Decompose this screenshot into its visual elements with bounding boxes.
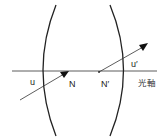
nodal-point-rear-dot xyxy=(98,71,100,73)
label-u-prime: u′ xyxy=(131,59,138,69)
label-optical-axis: 光軸 xyxy=(138,78,156,88)
incoming-ray xyxy=(20,74,64,100)
arrow-head-icon xyxy=(60,71,69,78)
label-u: u xyxy=(30,77,35,87)
lens-front-surface xyxy=(43,5,56,136)
label-N: N xyxy=(69,79,76,89)
lens-diagram: u N N′ u′ 光軸 xyxy=(0,0,168,140)
label-N-prime: N′ xyxy=(101,79,109,89)
lens-rear-surface xyxy=(110,5,124,136)
arrow-head-icon xyxy=(139,43,148,51)
